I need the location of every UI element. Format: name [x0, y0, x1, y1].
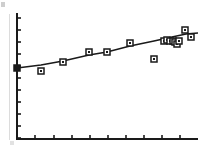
axes	[17, 14, 198, 139]
data-marker-core	[88, 51, 90, 53]
data-marker-core	[178, 40, 180, 42]
chart-figure	[0, 0, 198, 151]
data-marker	[14, 65, 20, 71]
data-marker-core	[40, 70, 42, 72]
data-marker-core	[62, 61, 64, 63]
scatter-plot	[0, 0, 198, 151]
data-marker-core	[184, 29, 186, 31]
data-marker-core	[190, 36, 192, 38]
data-marker-core	[106, 51, 108, 53]
data-markers	[14, 27, 194, 74]
data-marker-core	[153, 58, 155, 60]
data-marker-core	[129, 42, 131, 44]
